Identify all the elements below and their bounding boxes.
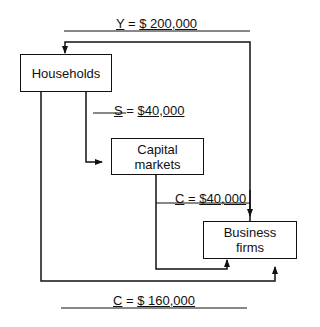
saving-label: S = $40,000 (114, 103, 185, 118)
saving-flow-arrow (86, 91, 102, 162)
capital-to-business-value: $40,000 (199, 191, 246, 206)
consumption-label: C = $ 160,000 (113, 293, 195, 308)
capital-to-business-label: C = $40,000 (175, 191, 246, 206)
capital-markets-node: Capital markets (111, 138, 204, 175)
capital-to-business-eq: = (184, 191, 199, 206)
capital-to-business-var: C (175, 191, 184, 206)
income-label: Y = $ 200,000 (116, 16, 197, 31)
income-eq: = (124, 16, 139, 31)
saving-var: S (114, 103, 123, 118)
households-label: Households (32, 66, 101, 81)
consumption-value: $ 160,000 (137, 293, 195, 308)
income-value: $ 200,000 (139, 16, 197, 31)
households-node: Households (20, 54, 112, 92)
business-firms-node: Business firms (203, 221, 297, 259)
business-firms-label-line2: firms (236, 240, 264, 255)
capital-markets-label-line1: Capital (137, 142, 177, 157)
consumption-eq: = (122, 293, 137, 308)
saving-value: $40,000 (138, 103, 185, 118)
capital-markets-label-line2: markets (134, 157, 180, 172)
business-firms-label-line1: Business (224, 225, 277, 240)
consumption-var: C (113, 293, 122, 308)
saving-eq: = (123, 103, 138, 118)
